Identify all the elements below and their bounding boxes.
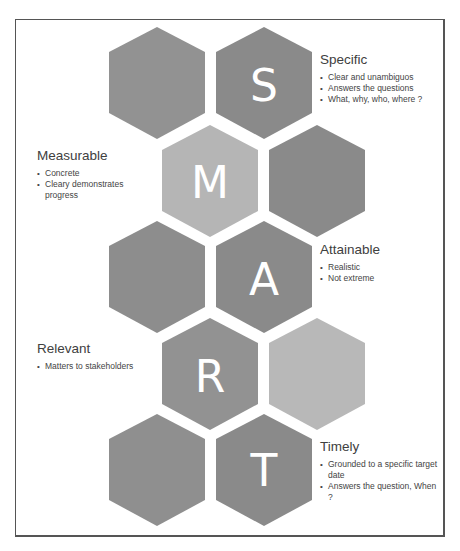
hexagon-m: M bbox=[162, 125, 258, 237]
hex-letter-s: S bbox=[250, 60, 278, 111]
hexagon-blank-2 bbox=[269, 125, 365, 237]
label-attainable-title: Attainable bbox=[320, 242, 380, 257]
label-timely: Timely Grounded to a specific target dat… bbox=[320, 439, 440, 503]
hex-letter-a: A bbox=[249, 254, 279, 305]
hexagon-blank-3 bbox=[109, 221, 205, 333]
bullet: Matters to stakeholders bbox=[37, 361, 133, 372]
hexagon-r: R bbox=[162, 318, 258, 430]
bullet: Answers the question, When ? bbox=[320, 481, 440, 503]
label-timely-title: Timely bbox=[320, 439, 440, 454]
hexagon-blank-4 bbox=[269, 318, 365, 430]
hex-letter-r: R bbox=[195, 351, 226, 402]
bullet: Not extreme bbox=[320, 273, 380, 284]
bullet: Clear and unambiguos bbox=[320, 72, 422, 83]
hexagon-s: S bbox=[216, 27, 312, 139]
bullet: Grounded to a specific target date bbox=[320, 459, 440, 481]
label-attainable: Attainable Realistic Not extreme bbox=[320, 242, 380, 284]
hex-letter-t: T bbox=[250, 445, 278, 496]
label-relevant-title: Relevant bbox=[37, 341, 133, 356]
hexagon-blank-1 bbox=[109, 27, 205, 139]
label-specific: Specific Clear and unambiguos Answers th… bbox=[320, 52, 422, 105]
bullet: Realistic bbox=[320, 262, 380, 273]
hexagon-t: T bbox=[216, 414, 312, 526]
hex-letter-m: M bbox=[191, 157, 229, 208]
bullet: Concrete bbox=[37, 168, 137, 179]
bullet: Answers the questions bbox=[320, 83, 422, 94]
label-relevant: Relevant Matters to stakeholders bbox=[37, 341, 133, 372]
hexagon-blank-5 bbox=[109, 414, 205, 526]
label-specific-title: Specific bbox=[320, 52, 422, 67]
hexagon-a: A bbox=[216, 221, 312, 333]
label-measurable: Measurable Concrete Cleary demonstrates … bbox=[37, 148, 137, 201]
bullet: Cleary demonstrates progress bbox=[37, 179, 137, 201]
bullet: What, why, who, where ? bbox=[320, 94, 422, 105]
label-measurable-title: Measurable bbox=[37, 148, 137, 163]
